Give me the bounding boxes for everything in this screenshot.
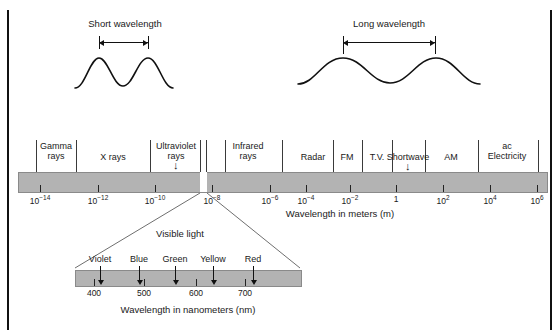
long-wave-arrow-right-icon [430, 40, 435, 46]
visible-axis-tick-label: 600 [176, 288, 216, 298]
visible-axis-tick [94, 279, 95, 286]
visible-axis-tick [245, 279, 246, 286]
spectrum-band-label: acElectricity [467, 141, 547, 161]
visible-axis-tick-label: 400 [74, 288, 114, 298]
visible-color-pointer-arrow-icon [213, 266, 214, 281]
visible-color-pointer-arrow-icon [253, 266, 254, 281]
long-wavelength-label: Long wavelength [334, 18, 444, 29]
spectrum-band-label-line1: Gamma [16, 141, 96, 151]
visible-light-gap [200, 171, 207, 192]
band-pointer-down-arrow-icon: ↓ [405, 161, 411, 172]
visible-axis-tick-label: 500 [124, 288, 164, 298]
visible-color-pointer-arrow-icon [139, 266, 140, 281]
band-pointer-down-arrow-icon: ↓ [173, 160, 179, 171]
short-wavelength-label: Short wavelength [70, 18, 180, 29]
short-wave-arrow-left-icon [99, 40, 104, 46]
visible-light-title: Visible light [156, 228, 204, 239]
visible-axis-tick-label: 700 [225, 288, 265, 298]
spectrum-band-label-line1: Infrared [208, 141, 288, 151]
short-wave-arrow-right-icon [143, 40, 148, 46]
short-wave-curve [72, 50, 192, 92]
visible-axis-tick [144, 279, 145, 286]
spectrum-band-label: Ultravioletrays [136, 141, 216, 161]
visible-light-bar [75, 270, 302, 287]
visible-color-label: Red [223, 254, 283, 264]
spectrum-band-label-line1: Ultraviolet [136, 141, 216, 151]
electromagnetic-spectrum-figure: Short wavelength Long wavelength Gammara… [0, 0, 559, 335]
short-wave-dim-line [99, 42, 148, 43]
visible-light-axis-caption: Wavelength in nanometers (nm) [98, 304, 278, 315]
visible-axis-tick [196, 279, 197, 286]
short-wave-dim-tick-right [148, 36, 149, 49]
long-wave-dim-line [343, 42, 435, 43]
visible-color-pointer-arrow-icon [100, 266, 101, 281]
spectrum-band-label-line2: Electricity [467, 151, 547, 161]
long-wave-curve [295, 52, 485, 88]
long-wave-arrow-left-icon [343, 40, 348, 46]
visible-color-pointer-arrow-icon [175, 266, 176, 281]
spectrum-band-label-line1: ac [467, 141, 547, 151]
